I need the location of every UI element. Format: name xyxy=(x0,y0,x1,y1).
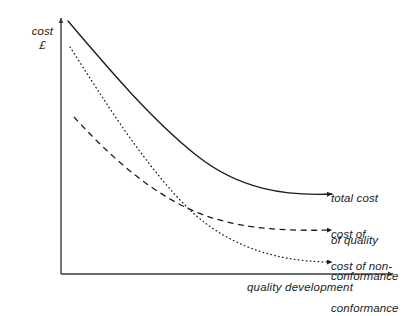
series-line-cost-of-conformance xyxy=(74,117,332,230)
series-label-cost-of-non-conformance-line1: cost of non- xyxy=(331,259,399,273)
series-line-total-cost-of-quality xyxy=(68,21,332,194)
y-axis-label-line2: £ xyxy=(39,39,45,51)
series-label-cost-of-non-conformance: cost of non- conformance xyxy=(331,231,399,316)
y-axis-label-line1: cost xyxy=(32,25,53,37)
series-label-cost-of-non-conformance-line2: conformance xyxy=(331,301,399,315)
y-axis-label: cost £ xyxy=(14,10,58,66)
